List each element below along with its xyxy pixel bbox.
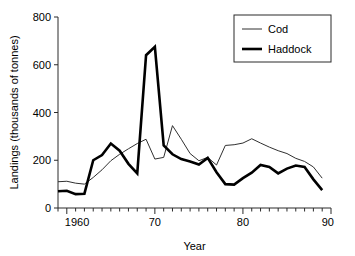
y-axis-tick-label: 0 <box>45 202 51 214</box>
y-axis-tick-label: 600 <box>33 59 51 71</box>
y-axis-tick-label: 400 <box>33 107 51 119</box>
chart-container: 0200400600800 1960708090 YearLandings (t… <box>0 0 355 256</box>
landings-line-chart: 0200400600800 1960708090 YearLandings (t… <box>0 0 355 256</box>
series-line-haddock <box>58 47 322 194</box>
legend-label-haddock: Haddock <box>268 43 312 55</box>
y-axis-title: Landings (thousands of tonnes) <box>8 35 20 189</box>
legend-label-cod: Cod <box>268 23 288 35</box>
series-line-cod <box>58 126 322 185</box>
chart-legend: CodHaddock <box>234 15 331 62</box>
x-axis-tick-label: 70 <box>149 216 161 228</box>
y-axis: 0200400600800 <box>33 11 58 214</box>
data-series-group <box>58 47 322 194</box>
y-axis-tick-label: 800 <box>33 11 51 23</box>
x-axis-tick-label: 90 <box>322 216 334 228</box>
x-axis-tick-label: 1960 <box>65 216 89 228</box>
x-axis-title: Year <box>183 240 206 252</box>
x-axis-tick-label: 80 <box>237 216 249 228</box>
y-axis-tick-label: 200 <box>33 154 51 166</box>
x-axis: 1960708090 <box>58 208 334 228</box>
